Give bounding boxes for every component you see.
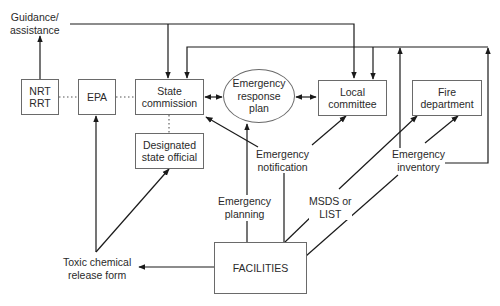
emergency-response-plan-ellipse: Emergency response plan xyxy=(223,69,295,123)
state-commission-box: State commission xyxy=(135,79,204,115)
emergency-notification-label: Emergency notification xyxy=(256,148,309,173)
toxic-chemical-release-form-label: Toxic chemical release form xyxy=(63,256,131,281)
facilities-box: FACILITIES xyxy=(214,242,307,294)
emergency-inventory-label: Emergency inventory xyxy=(392,148,445,173)
notification-to-local-arrow xyxy=(312,116,346,145)
guidance-assistance-label: Guidance/ assistance xyxy=(10,11,60,36)
return-line-to-state xyxy=(187,47,488,78)
msds-or-list-label: MSDS or LIST xyxy=(309,195,352,220)
inventory-to-fire-arrow xyxy=(425,116,458,143)
local-committee-box: Local committee xyxy=(318,80,387,116)
guidance-line xyxy=(70,24,354,78)
toxic-to-designated-arrow xyxy=(96,169,169,252)
nrt-rrt-box: NRT RRT xyxy=(21,79,59,115)
designated-state-official-box: Designated state official xyxy=(135,133,204,169)
fire-department-box: Fire department xyxy=(412,80,482,116)
epa-box: EPA xyxy=(78,79,116,115)
emergency-planning-label: Emergency planning xyxy=(218,195,271,220)
